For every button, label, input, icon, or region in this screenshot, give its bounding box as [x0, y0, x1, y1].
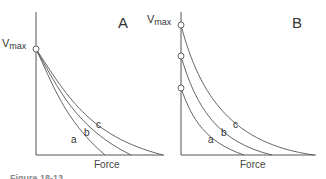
panel-b-x-label: Force: [240, 160, 266, 170]
panel-b-vmax-point-c: [178, 22, 184, 28]
panel-b-letter: B: [292, 15, 302, 30]
panel-a-curve-b: [36, 49, 131, 155]
panel-a-label-a: a: [71, 135, 77, 145]
panel-b-vmax-label: Vmax: [147, 14, 171, 25]
panel-a-letter: A: [118, 15, 128, 30]
panel-b-curves: [178, 22, 314, 155]
panel-a-label-b: b: [84, 128, 90, 138]
panel-b-vmax-point-a: [178, 85, 184, 91]
panel-b-label-a: a: [208, 135, 214, 145]
panel-b-curve-c: [181, 25, 314, 155]
panel-b-vmax-point-b: [178, 53, 184, 59]
panel-b-curve-b: [181, 56, 272, 155]
panel-b-label-b: b: [221, 128, 227, 138]
figure-caption: Figure 18-13: [10, 173, 63, 179]
panel-b-axes: [181, 12, 316, 155]
panel-a-vmax-label: Vmax: [2, 38, 26, 49]
panel-a-axes: [36, 12, 164, 155]
panel-a-label-c: c: [96, 120, 101, 130]
panel-b-label-c: c: [233, 120, 238, 130]
panel-a-curve-c: [36, 49, 163, 155]
panel-a-curves: [33, 46, 163, 155]
panel-a-vmax-point: [33, 46, 39, 52]
panel-a-x-label: Force: [94, 160, 120, 170]
